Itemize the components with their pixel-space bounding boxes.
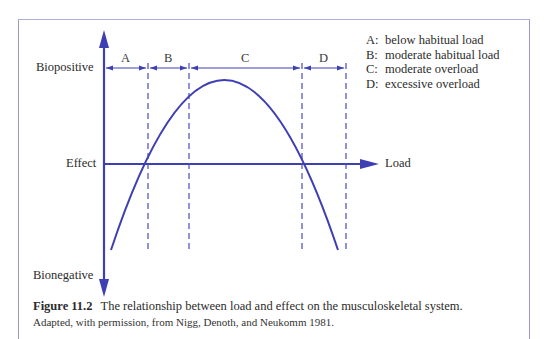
legend-item: A:below habitual load (366, 33, 500, 48)
load-label: Load (385, 156, 411, 171)
arrow-right-icon (360, 159, 379, 169)
figure-number: Figure 11.2 (33, 299, 93, 313)
effect-label: Effect (66, 156, 96, 171)
region-boundaries (148, 63, 346, 251)
segment-d-label: D (319, 51, 328, 66)
legend: A:below habitual load B:moderate habitua… (366, 33, 500, 91)
segment-a-label: A (121, 51, 130, 66)
legend-item: D:excessive overload (366, 77, 500, 92)
biopositive-label: Biopositive (36, 60, 94, 75)
arrow-up-icon (99, 30, 109, 48)
segment-c-label: C (241, 51, 249, 66)
caption-text: The relationship between load and effect… (101, 299, 463, 313)
legend-item: B:moderate habitual load (366, 48, 500, 63)
legend-item: C:moderate overload (366, 62, 500, 77)
segment-b-label: B (164, 51, 172, 66)
figure-credit: Adapted, with permission, from Nigg, Den… (33, 316, 334, 328)
arrow-down-icon (99, 279, 109, 297)
bionegative-label: Bionegative (33, 268, 93, 283)
figure-caption: Figure 11.2The relationship between load… (33, 299, 463, 314)
